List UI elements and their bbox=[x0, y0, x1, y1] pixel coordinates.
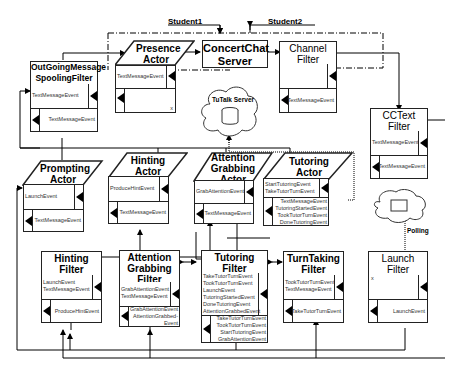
outgoing-filter[interactable]: TextMessageEvent TextMessageEvent bbox=[30, 84, 98, 132]
presence-title-2: Actor bbox=[136, 54, 176, 65]
student2-label: Student2 bbox=[268, 17, 302, 26]
port-out-arrow-icon bbox=[370, 306, 377, 316]
port-in-arrow-icon bbox=[336, 282, 343, 292]
tutoring-actor-title: Tutoring Actor bbox=[286, 156, 332, 178]
attention-grabbing-filter[interactable]: GrabAttentionEvent TextMessageEvent Grab… bbox=[119, 282, 180, 327]
presence-actor-title: Presence Actor bbox=[136, 43, 176, 65]
event-label: TextMessageEvent bbox=[288, 97, 334, 104]
port-in-arrow-icon bbox=[420, 138, 427, 148]
tutoring-filter[interactable]: TakeTutorTurnEvent TookTutorTurnEvent La… bbox=[201, 273, 268, 343]
port-out-arrow-icon bbox=[203, 324, 210, 334]
event-label: TookTutorTurnEvent bbox=[203, 280, 260, 287]
event-label: TextMessageEvent bbox=[43, 286, 89, 293]
port-out-arrow-icon bbox=[117, 93, 124, 103]
outgoing-title-2: SpoolingFilter bbox=[31, 73, 97, 84]
event-label: TextMessageEvent bbox=[120, 209, 166, 216]
port-in-arrow-icon bbox=[246, 187, 253, 197]
corner-mark: x bbox=[371, 275, 374, 282]
port-out-arrow-icon bbox=[265, 206, 272, 216]
tutalk-label: TuTalk Server bbox=[212, 96, 254, 103]
event-label: LaunchEvent bbox=[393, 308, 425, 315]
hinting-actor[interactable]: ProduceHintEvent TextMessageEvent bbox=[108, 176, 169, 224]
event-label: TextMessageEvent bbox=[117, 73, 163, 80]
launch-title-1: Launch bbox=[369, 253, 427, 264]
attention-filter-head: Attention Grabbing Filter bbox=[119, 250, 180, 283]
turntaking-filter-head: TurnTaking Filter bbox=[283, 251, 344, 276]
prompting-title-1: Prompting bbox=[40, 163, 86, 174]
port-in-arrow-icon bbox=[321, 183, 328, 193]
event-label: TookTutorTurnEvent bbox=[275, 212, 327, 219]
event-label: AttentionGrabbed- bbox=[130, 313, 178, 320]
attention-filter-title-1: Attention bbox=[120, 252, 179, 263]
turntaking-filter[interactable]: TookTutorTurnEvent TextMessageEvent Take… bbox=[283, 275, 344, 323]
cctext-title-1: CCText bbox=[371, 110, 427, 121]
attention-grabbing-actor[interactable]: GrabAttentionEvent TextMessageEvent bbox=[194, 180, 254, 224]
student1-label: Student1 bbox=[168, 17, 202, 26]
port-out-arrow-icon bbox=[25, 216, 32, 226]
event-label: StartTutoringEvent bbox=[265, 181, 311, 188]
event-label: TakeTutorTurnEvent bbox=[265, 188, 314, 195]
event-label: GrabAttentionEvent bbox=[196, 188, 244, 195]
presence-title-1: Presence bbox=[136, 43, 176, 54]
port-in-arrow-icon bbox=[90, 91, 97, 101]
port-in-arrow-icon bbox=[172, 289, 179, 299]
channel-title-1: Channel bbox=[280, 43, 336, 54]
outgoing-title-1: OutGoingMessage bbox=[31, 62, 97, 73]
event-label: LaunchEvent bbox=[25, 193, 57, 200]
event-label: TextMessageEvent bbox=[275, 198, 327, 205]
port-out-arrow-icon bbox=[196, 209, 203, 219]
event-label: ProduceHintEvent bbox=[55, 308, 99, 315]
launch-filter[interactable]: x LaunchEvent bbox=[368, 275, 428, 323]
port-in-arrow-icon bbox=[420, 282, 427, 292]
port-out-arrow-icon bbox=[121, 311, 128, 321]
tutoring-actor-title-2: Actor bbox=[286, 167, 332, 178]
hinting-filter-title-1: Hinting bbox=[42, 253, 101, 264]
channel-filter-head: Channel Filter bbox=[279, 41, 337, 65]
tutoring-filter-title-1: Tutoring bbox=[202, 252, 267, 263]
port-in-arrow-icon bbox=[329, 71, 336, 81]
outgoing-filter-head: OutGoingMessage SpoolingFilter bbox=[30, 61, 98, 85]
tutoring-actor-title-1: Tutoring bbox=[286, 156, 332, 167]
channel-filter[interactable]: TextMessageEvent bbox=[279, 64, 337, 113]
prompting-actor-title: Prompting Actor bbox=[40, 163, 86, 185]
prompting-actor[interactable]: LaunchEvent TextMessageEvent bbox=[23, 184, 84, 232]
event-label: TutoringStartedEvent bbox=[275, 205, 327, 212]
launch-filter-head: Launch Filter bbox=[368, 251, 428, 276]
port-in-arrow-icon bbox=[161, 184, 168, 194]
corner-mark: x bbox=[170, 105, 173, 112]
event-label: TextMessageEvent bbox=[49, 116, 95, 123]
turntaking-title-1: TurnTaking bbox=[284, 253, 343, 264]
event-label: StartTutoringEvent bbox=[217, 329, 266, 336]
cctext-filter[interactable]: TextMessageEvent TextMessageEvent bbox=[370, 131, 428, 179]
tutoring-actor[interactable]: StartTutoringEvent TakeTutorTurnEvent Te… bbox=[263, 178, 329, 226]
polling-cloud-icon bbox=[370, 188, 430, 224]
event-label: TextMessageEvent bbox=[285, 286, 331, 293]
port-in-arrow-icon bbox=[76, 192, 83, 202]
port-out-arrow-icon bbox=[110, 208, 117, 218]
event-label: LaunchEvent bbox=[203, 287, 260, 294]
port-out-arrow-icon bbox=[43, 306, 50, 316]
concertchat-server[interactable]: ConcertChat Server bbox=[202, 40, 268, 68]
port-in-arrow-icon bbox=[94, 282, 101, 292]
event-label: DoneTutoringEvent bbox=[275, 219, 327, 226]
event-label: Event bbox=[130, 320, 178, 327]
event-label: TextMessageEvent bbox=[121, 293, 167, 300]
event-label: GrabAttentionEvent bbox=[121, 286, 169, 293]
event-label: TextMessageEvent bbox=[32, 92, 78, 99]
attention-actor-title-2: Grabbing bbox=[208, 163, 258, 174]
polling-label: Polling bbox=[407, 227, 429, 234]
event-label: DoneTutoringEvent bbox=[203, 301, 260, 308]
event-label: LaunchEvent bbox=[43, 279, 75, 286]
server-title-1: ConcertChat bbox=[203, 42, 267, 55]
attention-actor-title-1: Attention bbox=[208, 152, 258, 163]
server-title-2: Server bbox=[203, 55, 267, 68]
presence-actor[interactable]: TextMessageEvent x bbox=[115, 65, 176, 113]
event-label: GrabAttentionEvent bbox=[130, 306, 178, 313]
hinting-filter-head: Hinting Filter bbox=[41, 251, 102, 276]
turntaking-title-2: Filter bbox=[284, 264, 343, 275]
event-label: TookTutorTurnEvent bbox=[285, 279, 334, 286]
event-label: TextMessageEvent bbox=[372, 139, 418, 146]
hinting-filter[interactable]: LaunchEvent TextMessageEvent ProduceHint… bbox=[41, 275, 102, 323]
tutoring-filter-head: Tutoring Filter bbox=[201, 250, 268, 274]
hinting-actor-title: Hinting Actor bbox=[126, 155, 170, 177]
